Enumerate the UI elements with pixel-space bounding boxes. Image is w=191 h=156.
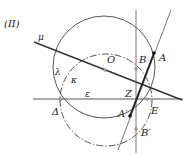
circle-kappa bbox=[60, 54, 152, 146]
point-E bbox=[146, 98, 148, 100]
label-O: O bbox=[107, 54, 115, 65]
label-A: A bbox=[158, 52, 166, 63]
figure-canvas: (II) μ O B A λ κ ε Z Δ E A′ B′ bbox=[0, 0, 191, 156]
point-A bbox=[152, 51, 156, 55]
label-epsilon: ε bbox=[85, 89, 90, 99]
label-Delta: Δ bbox=[51, 106, 59, 117]
point-Delta bbox=[60, 98, 62, 100]
point-B-prime bbox=[135, 128, 137, 130]
label-E: E bbox=[150, 105, 159, 116]
label-mu: μ bbox=[38, 32, 44, 42]
label-Z: Z bbox=[124, 88, 133, 99]
geometry-figure: (II) μ O B A λ κ ε Z Δ E A′ B′ bbox=[0, 0, 191, 156]
label-B: B bbox=[138, 54, 146, 65]
label-B-prime: B′ bbox=[140, 127, 151, 138]
point-A-prime bbox=[128, 114, 132, 118]
label-lambda: λ bbox=[54, 67, 61, 77]
point-B bbox=[135, 68, 137, 70]
circle-lambda bbox=[53, 16, 155, 118]
point-O bbox=[104, 69, 106, 71]
label-kappa: κ bbox=[70, 75, 77, 85]
figure-label: (II) bbox=[4, 18, 20, 29]
label-A-prime: A′ bbox=[117, 108, 128, 119]
